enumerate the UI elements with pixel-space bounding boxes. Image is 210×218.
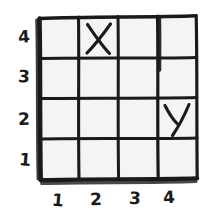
grid-border-top [40, 16, 197, 19]
grid-line-horizontal-3 [41, 138, 197, 139]
grid-border-bottom [41, 178, 197, 180]
y-axis-tick-2: 2 [8, 111, 31, 129]
hand-drawn-grid-figure: 4 3 2 1 1 2 3 4 [0, 0, 210, 218]
grid-line-horizontal-2 [40, 98, 197, 99]
x-axis-tick-1: 1 [47, 191, 68, 210]
x-axis-tick-3: 3 [125, 189, 146, 207]
grid-border-bottom-overdraw [42, 182, 196, 184]
grid-line-horizontal-1 [40, 57, 197, 58]
grid-border-left-overdraw [37, 20, 38, 179]
y-axis-tick-1: 1 [8, 150, 31, 169]
x-axis-tick-2: 2 [86, 191, 107, 209]
y-axis-tick-3: 3 [8, 67, 31, 85]
x-axis-tick-4: 4 [158, 188, 179, 206]
grid-border-left [40, 19, 41, 181]
y-mark-icon [160, 102, 196, 138]
x-mark-icon [81, 20, 117, 56]
marker-y-cell-col4-row2[interactable] [160, 102, 196, 138]
marker-x-cell-col2-row4[interactable] [81, 20, 117, 56]
grid-border-right [196, 16, 197, 179]
y-axis-tick-4: 4 [7, 28, 30, 46]
